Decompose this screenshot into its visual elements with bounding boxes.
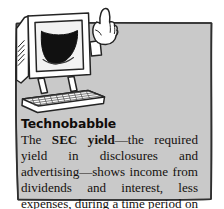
technobabble-sidebar-figure: TechnobabbleThe SEC yield—the required y… [0,0,224,209]
callout-text-block: TechnobabbleThe SEC yield—the required y… [17,24,209,200]
illustration-text-wrap-spacer [21,28,107,116]
callout-heading: Technobabble [21,116,116,131]
callout-body-lead: The [21,132,52,147]
callout-body-term: SEC yield [52,132,115,147]
